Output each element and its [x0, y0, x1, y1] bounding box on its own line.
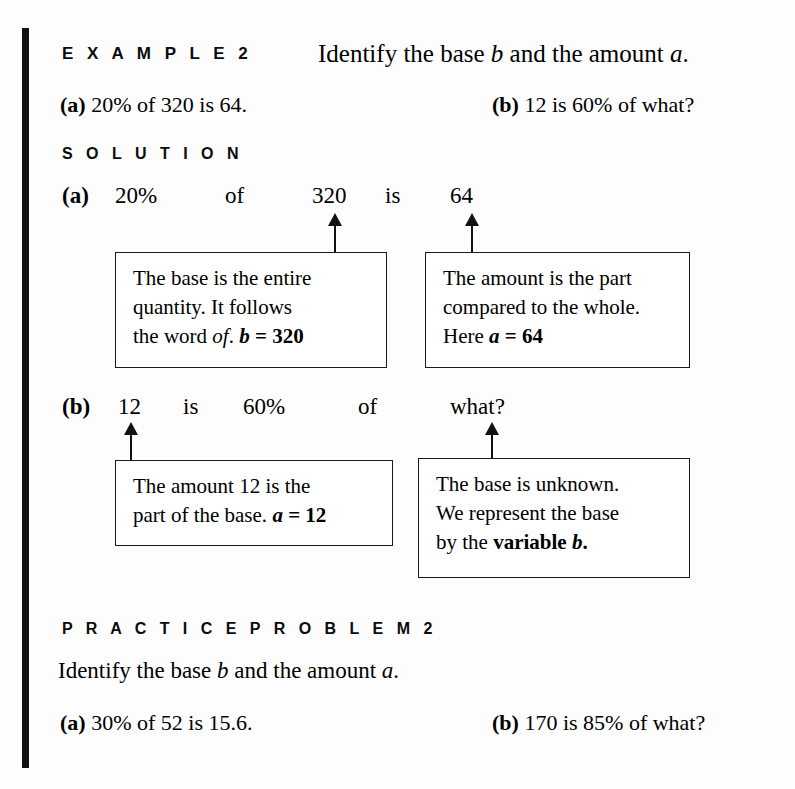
example-prompt-end: .	[683, 40, 689, 67]
callout-amount-line2: compared to the whole.	[443, 295, 640, 319]
callout-amount-line1: The amount is the part	[443, 266, 632, 290]
callout-amount-equation: = 64	[500, 324, 543, 348]
practice-item-a-text: 30% of 52 is 15.6.	[91, 710, 252, 735]
solution-row-a-token-of: of	[225, 183, 244, 209]
variable-b: b	[491, 40, 504, 67]
arrow-up-to-64-icon	[465, 213, 479, 253]
callout-amount-variable-a: a	[489, 324, 500, 348]
practice-variable-a: a	[382, 658, 394, 683]
callout-base-line3-pre: the word	[133, 324, 212, 348]
variable-a: a	[670, 40, 683, 67]
practice-item-b-text: 170 is 85% of what?	[524, 710, 705, 735]
callout-unknown-line3-pre: by the	[436, 530, 493, 554]
practice-prompt: Identify the base b and the amount a.	[58, 658, 399, 684]
callout-part-line1: The amount 12 is the	[133, 474, 310, 498]
arrow-up-to-320-icon	[328, 213, 342, 253]
practice-item-a: (a) 30% of 52 is 15.6.	[60, 710, 252, 736]
example-item-b-marker: (b)	[492, 92, 519, 117]
solution-row-b-token-is: is	[183, 394, 198, 420]
callout-base-word-of: of	[212, 324, 228, 348]
practice-problem-heading: P R A C T I C E P R O B L E M 2	[62, 620, 437, 638]
callout-amount-line3-pre: Here	[443, 324, 489, 348]
callout-unknown-line1: The base is unknown.	[436, 472, 619, 496]
callout-amount-text: The amount is the part compared to the w…	[443, 264, 640, 351]
example-prompt: Identify the base b and the amount a.	[318, 40, 689, 68]
callout-base-line3-mid: .	[229, 324, 240, 348]
example-item-b-text: 12 is 60% of what?	[524, 92, 694, 117]
callout-part-variable-a: a	[272, 503, 283, 527]
callout-base-equation: = 320	[250, 324, 304, 348]
left-margin-rule	[22, 28, 29, 768]
example-item-a-marker: (a)	[60, 92, 86, 117]
practice-item-b-marker: (b)	[492, 710, 519, 735]
arrow-up-to-what-icon	[485, 422, 499, 459]
practice-prompt-end: .	[393, 658, 399, 683]
solution-row-b-token-what: what?	[450, 394, 505, 420]
example-item-b: (b) 12 is 60% of what?	[492, 92, 694, 118]
solution-row-a-marker: (a)	[62, 183, 89, 209]
callout-amount: The amount is the part compared to the w…	[425, 252, 690, 368]
callout-base-text: The base is the entire quantity. It foll…	[133, 264, 311, 351]
arrow-up-to-12-icon	[124, 422, 138, 461]
practice-item-b: (b) 170 is 85% of what?	[492, 710, 705, 736]
callout-unknown-text: The base is unknown. We represent the ba…	[436, 470, 619, 557]
callout-unknown: The base is unknown. We represent the ba…	[418, 458, 690, 578]
callout-unknown-variable-b: b	[572, 530, 583, 554]
solution-row-b-marker: (b)	[62, 394, 90, 420]
example-item-a-text: 20% of 320 is 64.	[91, 92, 247, 117]
practice-variable-b: b	[217, 658, 229, 683]
practice-item-a-marker: (a)	[60, 710, 86, 735]
callout-part-equation: = 12	[283, 503, 326, 527]
practice-prompt-pre: Identify the base	[58, 658, 217, 683]
example-item-a: (a) 20% of 320 is 64.	[60, 92, 247, 118]
callout-base-variable-b: b	[239, 324, 250, 348]
callout-unknown-line3-end: .	[582, 530, 587, 554]
solution-row-b-token-percent: 60%	[243, 394, 285, 420]
solution-row-b-token-of: of	[358, 394, 377, 420]
callout-unknown-word-variable: variable	[493, 530, 572, 554]
solution-row-a-token-percent: 20%	[115, 183, 157, 209]
solution-row-b-token-amount: 12	[118, 394, 141, 420]
solution-row-a-token-is: is	[385, 183, 400, 209]
callout-base-line2: quantity. It follows	[133, 295, 292, 319]
solution-row-a-token-amount: 64	[450, 183, 473, 209]
textbook-page: E X A M P L E 2 Identify the base b and …	[0, 0, 795, 789]
practice-prompt-mid: and the amount	[229, 658, 382, 683]
callout-part: The amount 12 is the part of the base. a…	[115, 460, 393, 546]
example-prompt-pre: Identify the base	[318, 40, 491, 67]
example-prompt-mid: and the amount	[503, 40, 670, 67]
callout-part-text: The amount 12 is the part of the base. a…	[133, 472, 326, 530]
solution-heading: S O L U T I O N	[62, 145, 243, 163]
callout-part-line2-pre: part of the base.	[133, 503, 272, 527]
example-heading: E X A M P L E 2	[62, 44, 252, 64]
callout-base-line1: The base is the entire	[133, 266, 311, 290]
callout-unknown-line2: We represent the base	[436, 501, 619, 525]
callout-base: The base is the entire quantity. It foll…	[115, 252, 387, 368]
solution-row-a-token-base: 320	[312, 183, 347, 209]
